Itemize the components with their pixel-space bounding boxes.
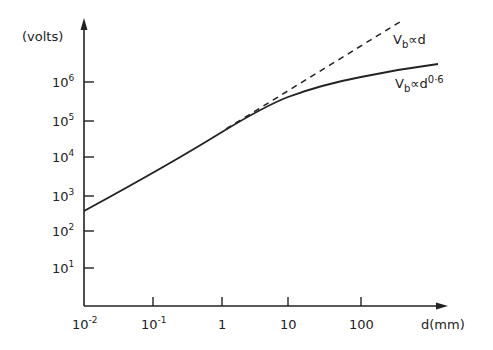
svg-text:102: 102 bbox=[52, 222, 74, 239]
svg-text:10: 10 bbox=[280, 317, 297, 332]
breakdown-voltage-chart: (volts) 106 105 104 103 102 101 10-2 10-… bbox=[0, 0, 493, 350]
annotation-vb-prop-d: Vb∝d bbox=[393, 32, 426, 50]
svg-text:101: 101 bbox=[52, 259, 74, 276]
series-vb-prop-d06-solid bbox=[84, 64, 438, 211]
x-tick-labels: 10-2 10-1 1 10 100 bbox=[72, 315, 374, 332]
svg-text:106: 106 bbox=[52, 73, 75, 90]
y-axis-arrow-icon bbox=[81, 18, 88, 30]
svg-text:103: 103 bbox=[52, 187, 74, 204]
svg-text:104: 104 bbox=[52, 148, 75, 165]
svg-text:100: 100 bbox=[349, 317, 374, 332]
y-tick-labels: 106 105 104 103 102 101 bbox=[52, 73, 75, 276]
svg-text:10-1: 10-1 bbox=[141, 315, 167, 332]
svg-text:10-2: 10-2 bbox=[72, 315, 98, 332]
x-axis-arrow-icon bbox=[436, 303, 448, 310]
y-axis-label: (volts) bbox=[22, 29, 63, 44]
y-ticks bbox=[84, 82, 94, 268]
x-ticks bbox=[153, 297, 361, 306]
svg-text:1: 1 bbox=[218, 317, 226, 332]
x-axis-label: d(mm) bbox=[421, 317, 465, 332]
annotation-vb-prop-d06: Vb∝d0·6 bbox=[395, 74, 444, 94]
svg-text:105: 105 bbox=[52, 112, 74, 129]
